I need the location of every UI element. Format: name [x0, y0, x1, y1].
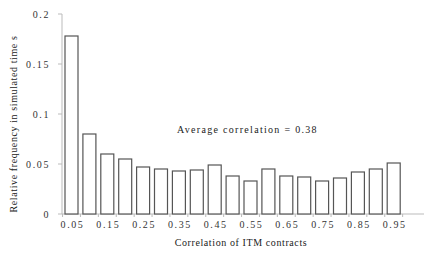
bar: [172, 171, 185, 214]
average-correlation-annotation: Average correlation = 0.38: [177, 124, 318, 135]
x-tick-label: 0.75: [311, 219, 335, 230]
y-axis-title: Relative frequency in simulated time s: [8, 36, 19, 213]
bar: [280, 176, 293, 214]
x-axis: 0.050.150.250.350.450.550.650.750.850.95: [61, 214, 424, 230]
bar: [316, 181, 329, 214]
y-tick-label: 0.05: [26, 159, 50, 170]
y-axis: 00.050.10.150.2: [26, 9, 62, 220]
x-tick-label: 0.95: [383, 219, 407, 230]
bar: [208, 165, 221, 214]
bar: [244, 181, 257, 214]
x-tick-label: 0.65: [275, 219, 299, 230]
bar: [155, 169, 168, 214]
bar: [226, 176, 239, 214]
x-tick-label: 0.15: [96, 219, 120, 230]
bar: [101, 154, 114, 214]
x-tick-label: 0.25: [132, 219, 156, 230]
x-tick-label: 0.05: [61, 219, 85, 230]
x-tick-label: 0.45: [204, 219, 228, 230]
bar: [387, 163, 400, 214]
bar: [369, 169, 382, 214]
x-tick-label: 0.55: [240, 219, 264, 230]
bar: [83, 134, 96, 214]
bar: [190, 170, 203, 214]
x-tick-label: 0.35: [168, 219, 192, 230]
x-tick-label: 0.85: [347, 219, 371, 230]
y-tick-label: 0: [43, 209, 50, 220]
bar-chart: 00.050.10.150.2 0.050.150.250.350.450.55…: [0, 0, 434, 253]
bar: [334, 178, 347, 214]
x-axis-title: Correlation of ITM contracts: [175, 237, 308, 248]
bar: [137, 167, 150, 214]
bar: [298, 177, 311, 214]
bar: [119, 159, 132, 214]
bar: [262, 169, 275, 214]
y-tick-label: 0.1: [33, 109, 50, 120]
bar: [65, 36, 78, 214]
bar: [351, 172, 364, 214]
y-tick-label: 0.2: [33, 9, 50, 20]
y-tick-label: 0.15: [26, 59, 50, 70]
